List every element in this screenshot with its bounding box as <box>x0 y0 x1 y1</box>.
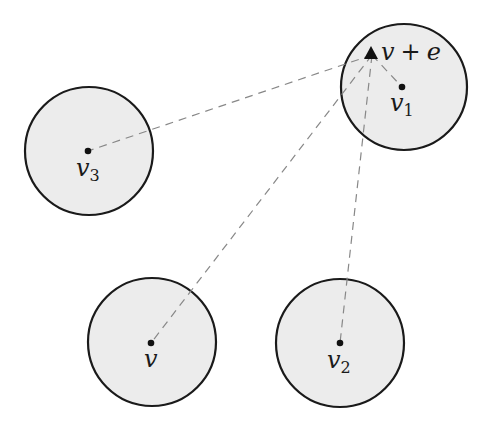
diagram-svg: v+e v1 v3 v v2 <box>0 0 490 432</box>
diagram-canvas: v+e v1 v3 v v2 <box>0 0 490 432</box>
label-target: v+e <box>381 38 441 66</box>
label-v: v <box>144 345 158 373</box>
